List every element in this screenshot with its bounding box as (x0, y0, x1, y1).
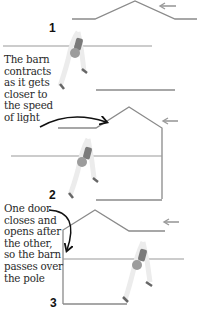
runner-figure-1 (60, 32, 87, 89)
motion-arrow-icon (163, 118, 178, 124)
panel-number-3: 3 (50, 296, 57, 310)
panel-number-1: 1 (49, 21, 56, 35)
barn-roof-1 (72, 1, 197, 19)
caption-doors: One door closes and opens after the othe… (4, 203, 63, 284)
runner-figure-2 (69, 139, 98, 198)
panel-number-2: 2 (49, 188, 56, 202)
barn-roof-3 (63, 210, 165, 304)
motion-arrow-icon (164, 219, 179, 225)
motion-arrow-icon (160, 3, 176, 9)
runner-figure-3 (123, 242, 152, 302)
panel-3 (49, 210, 184, 304)
caption-barn-contracts: The barn contracts as it gets closer to … (4, 54, 53, 124)
